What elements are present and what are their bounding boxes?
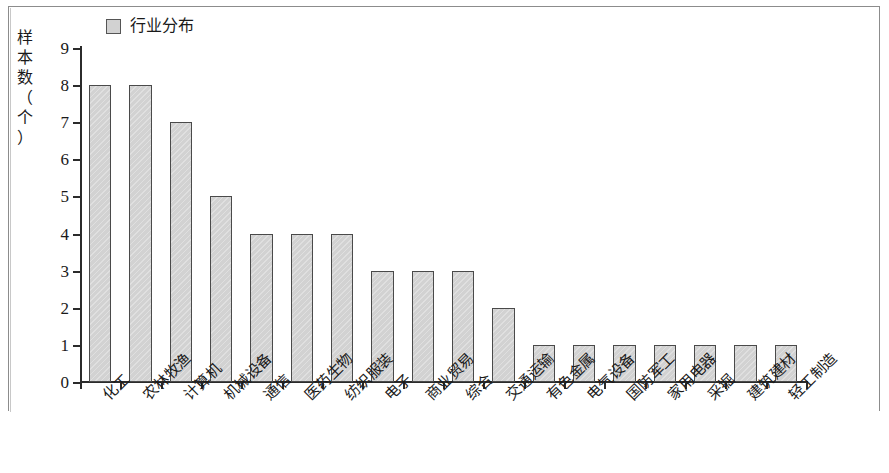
legend-swatch-industry-distribution xyxy=(106,19,121,34)
legend-label-industry-distribution: 行业分布 xyxy=(130,18,194,34)
y-tick-mark xyxy=(73,308,80,310)
y-tick-label: 9 xyxy=(61,40,70,57)
bar xyxy=(170,122,193,382)
y-tick-mark xyxy=(73,85,80,87)
y-axis-title-char: ） xyxy=(14,128,36,148)
legend: 行业分布 xyxy=(106,18,194,34)
bar xyxy=(210,196,233,382)
y-tick-label: 2 xyxy=(61,299,70,316)
y-axis-title: 样本数（个） xyxy=(14,28,36,148)
y-tick-mark xyxy=(73,159,80,161)
y-tick-label: 5 xyxy=(61,188,70,205)
y-axis-title-char: 数 xyxy=(14,68,36,88)
y-axis-title-char: 个 xyxy=(14,108,36,128)
bar xyxy=(734,345,757,382)
y-tick-label: 4 xyxy=(61,225,70,242)
y-tick-mark xyxy=(73,271,80,273)
y-tick-mark xyxy=(73,48,80,50)
y-tick-label: 1 xyxy=(61,336,70,353)
plot-area: 0123456789 xyxy=(80,48,806,382)
y-axis-title-char: （ xyxy=(14,88,36,108)
y-tick-label: 6 xyxy=(61,151,70,168)
y-axis-title-char: 本 xyxy=(14,48,36,68)
bar xyxy=(129,85,152,382)
y-tick-mark xyxy=(73,234,80,236)
y-tick-label: 7 xyxy=(61,114,70,131)
chart-page: 样本数（个） 行业分布 0123456789 化工农林牧渔计算机机械设备通信医药… xyxy=(0,0,889,473)
y-tick-mark xyxy=(73,382,80,384)
y-tick-label: 3 xyxy=(61,262,70,279)
y-tick-mark xyxy=(73,345,80,347)
y-tick-mark xyxy=(73,196,80,198)
y-axis-title-char: 样 xyxy=(14,28,36,48)
x-tick-mark xyxy=(80,381,82,389)
bar xyxy=(412,271,435,382)
y-tick-label: 0 xyxy=(61,374,70,391)
y-tick-label: 8 xyxy=(61,77,70,94)
bar xyxy=(89,85,112,382)
bar xyxy=(492,308,515,382)
bar xyxy=(291,234,314,382)
y-tick-mark xyxy=(73,122,80,124)
